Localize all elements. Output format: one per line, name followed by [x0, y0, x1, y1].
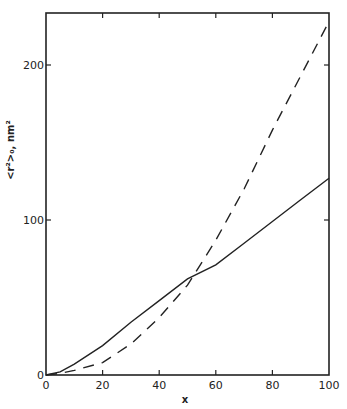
plot-border: [46, 13, 329, 375]
plot-frame: [46, 13, 329, 375]
x-axis-label: x: [182, 394, 189, 405]
y-tick-label: 100: [23, 214, 44, 227]
series-solid-line: [46, 178, 329, 375]
x-tick-label: 60: [209, 379, 223, 392]
x-tick-label: 40: [152, 379, 166, 392]
tick-labels: 0204060801000100200: [23, 59, 340, 392]
x-tick-label: 20: [96, 379, 110, 392]
x-tick-label: 80: [265, 379, 279, 392]
line-chart: 0204060801000100200 x <r²>₀, nm²: [0, 0, 347, 409]
data-series: [46, 22, 329, 375]
y-tick-label: 200: [23, 59, 44, 72]
series-dashed-line: [46, 22, 329, 375]
y-axis-label: <r²>₀, nm²: [5, 120, 16, 180]
axis-ticks: [46, 13, 329, 375]
y-tick-label: 0: [37, 369, 44, 382]
x-tick-label: 100: [319, 379, 340, 392]
